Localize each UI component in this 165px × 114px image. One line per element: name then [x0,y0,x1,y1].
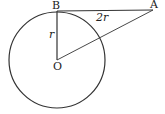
label-BA-length: 2r [95,11,109,24]
tangent-diagram: B A O 2r r [0,0,165,114]
label-A: A [149,0,159,11]
label-O: O [53,60,62,73]
label-BO-length: r [49,28,55,41]
label-B: B [52,0,60,12]
